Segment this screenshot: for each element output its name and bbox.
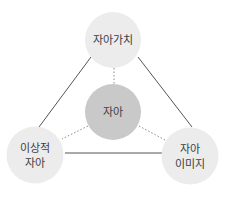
node-ideal-self-line2: 자아 [25,156,45,171]
node-ideal-self: 이상적 자아 [6,127,64,184]
node-self-label: 자아 [103,105,123,120]
dotted-center-right [139,126,165,140]
node-self-image-line1: 자아 [180,142,200,157]
edge-top-left [39,57,91,127]
node-self: 자아 [85,84,141,140]
edge-top-right [138,57,192,127]
dotted-center-left [62,126,88,139]
node-self-worth-label: 자아가치 [93,33,133,48]
node-self-worth: 자아가치 [85,12,141,68]
node-self-image-line2: 이미지 [175,157,205,172]
node-self-image: 자아 이미지 [161,128,219,185]
node-ideal-self-line1: 이상적 [20,141,50,156]
